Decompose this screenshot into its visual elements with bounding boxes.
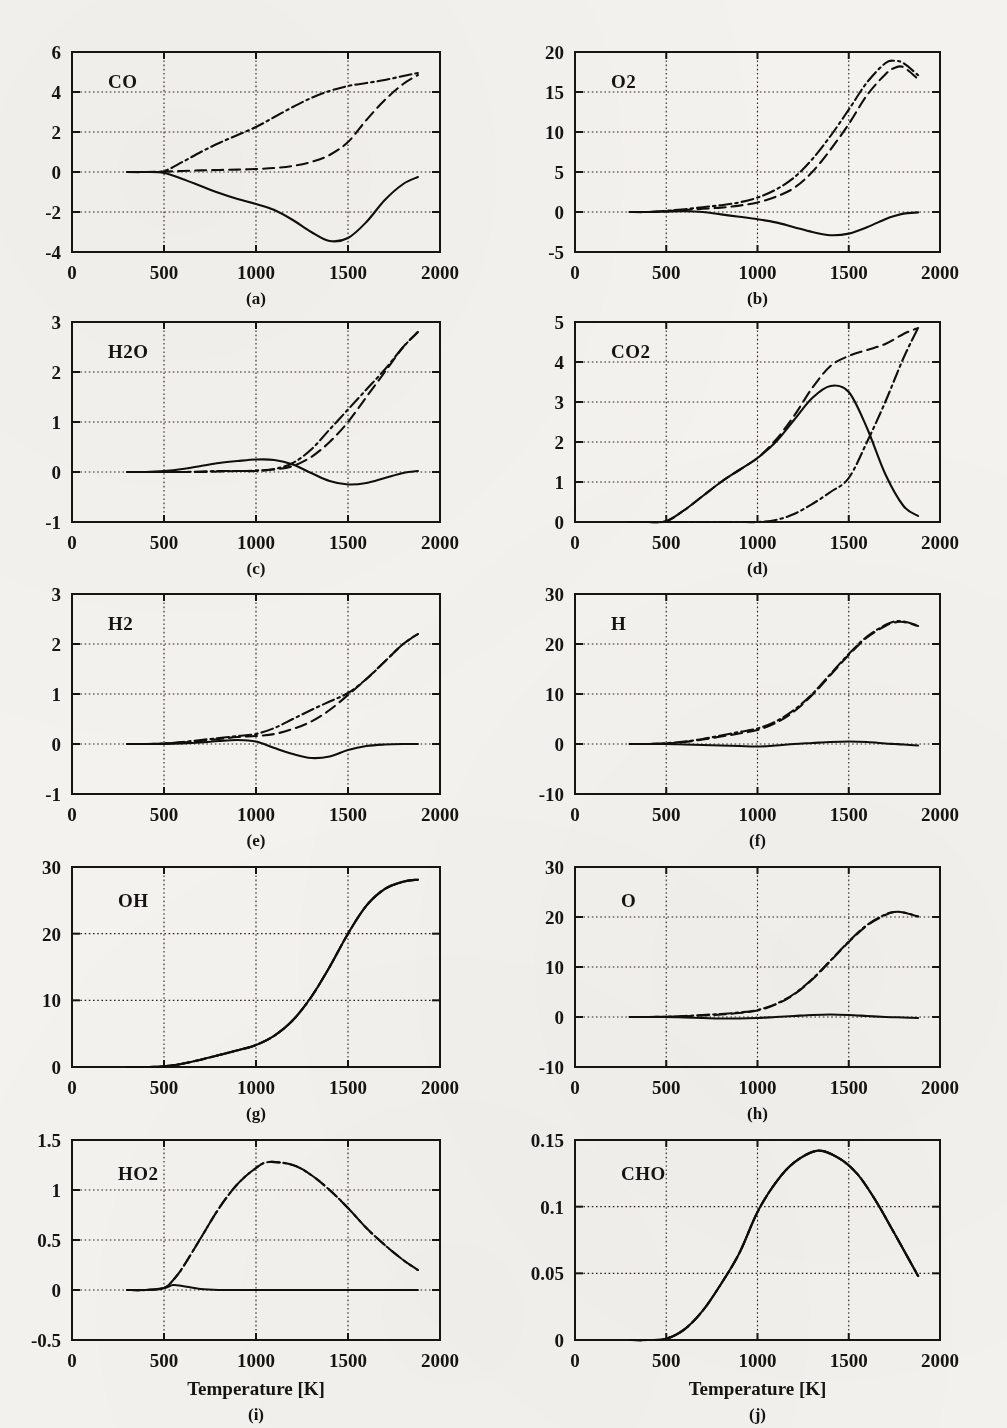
species-label-o: O bbox=[621, 890, 636, 911]
curve-co-dashdot bbox=[127, 73, 418, 172]
y-tick-label: 1 bbox=[52, 1180, 62, 1201]
curve-h-dashed bbox=[630, 622, 918, 744]
species-label-co: CO bbox=[108, 71, 138, 92]
chart-panel-h2o: -101230500100015002000H2O(c) bbox=[0, 300, 500, 580]
curve-co-dashed bbox=[127, 75, 418, 172]
y-tick-label: -5 bbox=[548, 242, 564, 263]
y-tick-label: 2 bbox=[52, 362, 62, 383]
panel-letter-label: (i) bbox=[248, 1405, 264, 1424]
y-tick-label: 10 bbox=[545, 122, 564, 143]
x-tick-label: 1000 bbox=[739, 1077, 777, 1098]
x-tick-label: 2000 bbox=[921, 532, 959, 553]
curves bbox=[630, 621, 918, 746]
curve-o2-solid bbox=[630, 211, 918, 235]
curve-co2-solid bbox=[630, 386, 918, 523]
species-label-o2: O2 bbox=[611, 71, 636, 92]
chart-panel-o: -1001020300500100015002000O(h) bbox=[503, 845, 1003, 1125]
chart-panel-co: -4-202460500100015002000CO(a) bbox=[0, 30, 500, 310]
species-label-h2o: H2O bbox=[108, 341, 149, 362]
y-tick-label: 20 bbox=[42, 924, 61, 945]
curve-o2-dashdot bbox=[630, 61, 918, 212]
x-tick-label: 2000 bbox=[421, 532, 459, 553]
species-label-h2: H2 bbox=[108, 613, 133, 634]
y-tick-label: 0 bbox=[555, 734, 565, 755]
chart-panel-cho: 00.050.10.150500100015002000CHOTemperatu… bbox=[503, 1118, 1003, 1428]
species-label-h: H bbox=[611, 613, 626, 634]
x-tick-label: 500 bbox=[652, 804, 681, 825]
curve-co2-dashdot bbox=[630, 328, 918, 522]
x-tick-label: 1500 bbox=[830, 1350, 868, 1371]
species-label-oh: OH bbox=[118, 890, 149, 911]
y-tick-label: 0 bbox=[52, 1057, 62, 1078]
curves bbox=[127, 332, 418, 485]
x-tick-label: 1500 bbox=[329, 532, 367, 553]
y-tick-label: 1 bbox=[555, 472, 565, 493]
chart-panel-o2: -5051015200500100015002000O2(b) bbox=[503, 30, 1003, 310]
curve-co2-dashed bbox=[630, 328, 918, 522]
y-tick-label: 3 bbox=[52, 312, 62, 333]
y-tick-label: 0 bbox=[555, 1007, 565, 1028]
x-tick-label: 1500 bbox=[830, 1077, 868, 1098]
x-tick-label: 500 bbox=[652, 262, 681, 283]
curve-cho-dashdot bbox=[630, 1151, 918, 1340]
y-tick-label: 0.1 bbox=[540, 1197, 564, 1218]
x-tick-label: 1000 bbox=[237, 532, 275, 553]
x-tick-label: 0 bbox=[67, 1350, 77, 1371]
y-tick-label: -1 bbox=[45, 784, 61, 805]
x-tick-label: 1000 bbox=[739, 532, 777, 553]
x-tick-label: 500 bbox=[150, 1077, 179, 1098]
x-tick-label: 2000 bbox=[921, 1077, 959, 1098]
y-tick-label: 0 bbox=[52, 734, 62, 755]
y-tick-label: 5 bbox=[555, 162, 565, 183]
x-tick-label: 500 bbox=[150, 1350, 179, 1371]
y-tick-label: 10 bbox=[545, 957, 564, 978]
curves bbox=[127, 73, 418, 241]
x-tick-label: 0 bbox=[570, 804, 580, 825]
x-tick-label: 2000 bbox=[421, 1077, 459, 1098]
curve-co-solid bbox=[127, 172, 418, 241]
chart-panel-oh: 01020300500100015002000OH(g) bbox=[0, 845, 500, 1125]
curve-h2-dashdot bbox=[127, 634, 418, 744]
y-tick-label: 2 bbox=[52, 122, 62, 143]
curves bbox=[127, 634, 418, 758]
species-label-co2: CO2 bbox=[611, 341, 651, 362]
y-tick-label: 20 bbox=[545, 634, 564, 655]
x-tick-label: 0 bbox=[67, 532, 77, 553]
x-axis-title: Temperature [K] bbox=[187, 1378, 325, 1399]
chart-panel-ho2: -0.500.511.50500100015002000HO2Temperatu… bbox=[0, 1118, 500, 1428]
curve-oh-dashed bbox=[127, 880, 418, 1067]
y-tick-label: 0.05 bbox=[531, 1263, 564, 1284]
curve-h-dashdot bbox=[630, 621, 918, 744]
y-tick-label: 30 bbox=[545, 857, 564, 878]
chart-panel-h2: -101230500100015002000H2(e) bbox=[0, 572, 500, 852]
x-axis-title: Temperature [K] bbox=[689, 1378, 827, 1399]
y-tick-label: 3 bbox=[555, 392, 565, 413]
curve-ho2-dashed bbox=[127, 1162, 418, 1290]
curve-o-dashed bbox=[630, 912, 918, 1017]
y-tick-label: 2 bbox=[52, 634, 62, 655]
y-tick-label: 0 bbox=[555, 202, 565, 223]
multi-panel-species-figure: -4-202460500100015002000CO(a)-5051015200… bbox=[0, 0, 1007, 1428]
x-tick-label: 0 bbox=[67, 262, 77, 283]
curve-oh-solid bbox=[127, 880, 418, 1067]
curve-h2-dashed bbox=[127, 634, 418, 744]
x-tick-label: 500 bbox=[652, 1350, 681, 1371]
y-tick-label: 30 bbox=[545, 584, 564, 605]
y-tick-label: 0.5 bbox=[37, 1230, 61, 1251]
x-tick-label: 2000 bbox=[421, 262, 459, 283]
x-tick-label: 1500 bbox=[329, 262, 367, 283]
curve-o-dashdot bbox=[630, 912, 918, 1017]
y-tick-label: 1 bbox=[52, 412, 62, 433]
x-tick-label: 500 bbox=[652, 1077, 681, 1098]
y-tick-label: 0 bbox=[52, 162, 62, 183]
chart-panel-co2: 0123450500100015002000CO2(d) bbox=[503, 300, 1003, 580]
y-tick-label: 0 bbox=[52, 462, 62, 483]
y-tick-label: 0 bbox=[555, 512, 565, 533]
y-tick-label: 5 bbox=[555, 312, 565, 333]
curves bbox=[630, 61, 918, 236]
y-tick-label: 30 bbox=[42, 857, 61, 878]
y-tick-label: 1 bbox=[52, 684, 62, 705]
y-tick-label: 1.5 bbox=[37, 1130, 61, 1151]
x-tick-label: 1000 bbox=[739, 804, 777, 825]
x-tick-label: 0 bbox=[570, 1350, 580, 1371]
